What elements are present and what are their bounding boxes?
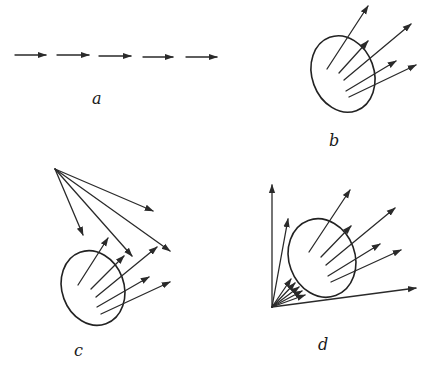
arrow: [339, 41, 368, 73]
panel-a: a: [15, 55, 217, 108]
panel-d: d: [272, 185, 416, 354]
arrow: [327, 6, 368, 69]
panel-c: c: [51, 169, 170, 360]
blob-outline: [301, 27, 386, 122]
arrow: [55, 169, 132, 256]
arrow: [91, 256, 124, 289]
arrow: [331, 250, 401, 282]
arrow: [321, 226, 351, 257]
diagram-canvas: a b c d: [0, 0, 427, 370]
panel-label: b: [329, 131, 339, 150]
arrow: [309, 190, 350, 252]
panel-label: d: [318, 335, 328, 354]
arrow: [272, 219, 288, 307]
blob-outline: [51, 242, 135, 335]
panel-b: b: [301, 6, 416, 150]
panel-label: a: [92, 89, 102, 108]
blob-outline: [277, 209, 366, 307]
panel-label: c: [74, 341, 83, 360]
arrow: [78, 238, 108, 285]
